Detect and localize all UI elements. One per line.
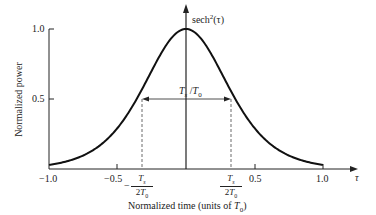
fwhm-label: Ts /T0 <box>179 86 202 99</box>
x-tick-label-1: 1.0 <box>316 174 329 184</box>
x-tick-label-05: 0.5 <box>249 174 262 184</box>
right-fraction-label: Ts 2T0 <box>220 174 242 199</box>
center-axis-arrow-icon <box>183 4 189 13</box>
left-fraction-minus: − <box>124 181 130 191</box>
x-tick-label-m1: −1.0 <box>39 174 57 184</box>
left-fraction-label: Ts 2T0 <box>131 174 153 199</box>
fwhm-0: 0 <box>198 91 202 99</box>
y-tick-label-05: 0.5 <box>32 94 45 104</box>
curve-label: sech2(τ) <box>192 14 224 25</box>
x-axis-label: Normalized time (units of T0) <box>128 201 247 214</box>
left-frac-den: 2T0 <box>131 187 153 199</box>
y-axis-label: Normalized power <box>13 60 24 140</box>
x-label-pre: Normalized time (units of <box>128 200 234 211</box>
x-axis-symbol: τ <box>355 173 359 183</box>
curve-label-name: sech <box>192 14 210 25</box>
curve-label-arg: (τ) <box>213 14 224 25</box>
y-tick-label-1: 1.0 <box>32 24 45 34</box>
x-tick-label-m05: −0.5 <box>104 174 122 184</box>
fwhm-arrow-right-icon <box>224 97 231 102</box>
x-label-post: ) <box>243 200 246 211</box>
fwhm-arrow-left-icon <box>142 97 149 102</box>
right-frac-den: 2T0 <box>220 187 242 199</box>
left-frac-num: Ts <box>131 174 153 187</box>
right-frac-num: Ts <box>220 174 242 187</box>
